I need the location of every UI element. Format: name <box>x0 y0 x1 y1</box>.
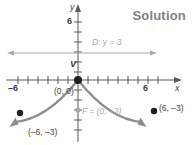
x-tick-label-negative-6: –6 <box>8 84 18 93</box>
parabola-graph-figure: Solution y x 6 –6 6 D: y = 3 V (0, 0) F … <box>0 0 192 145</box>
y-axis <box>74 4 82 142</box>
right-point-dot <box>151 108 157 114</box>
vertex-coordinates-label: (0, 0) <box>54 87 74 96</box>
x-axis <box>6 76 182 84</box>
left-point-coordinates-label: (–6, –3) <box>28 128 57 137</box>
y-axis-label: y <box>70 3 75 12</box>
focus-label: F = (0, –3) <box>82 107 121 116</box>
directrix-line <box>7 51 157 56</box>
page-title: Solution <box>132 9 186 22</box>
focus-point-dot <box>75 107 80 112</box>
x-axis-label: x <box>175 84 180 93</box>
directrix-label: D: y = 3 <box>92 38 122 47</box>
x-tick-label-6: 6 <box>143 84 148 93</box>
vertex-point-dot <box>74 76 82 84</box>
y-tick-label-6: 6 <box>67 17 72 26</box>
vertex-marker-label: V <box>70 59 76 69</box>
left-point-dot <box>17 110 23 116</box>
right-point-coordinates-label: (6, –3) <box>159 104 184 113</box>
